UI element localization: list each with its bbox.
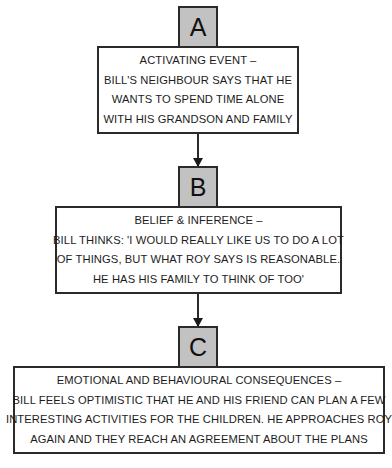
- arrow-a-to-b-icon: [197, 134, 199, 166]
- consequences-line-2: INTERESTING ACTIVITIES FOR THE CHILDREN.…: [6, 410, 392, 430]
- step-label-c: C: [178, 326, 218, 366]
- arrow-b-to-c-icon: [197, 294, 199, 326]
- step-label-b-text: B: [190, 173, 207, 202]
- activating-event-box: ACTIVATING EVENT – BILL'S NEIGHBOUR SAYS…: [97, 46, 299, 134]
- step-label-a-text: A: [190, 13, 207, 42]
- belief-inference-line-3: HE HAS HIS FAMILY TO THINK OF TOO': [93, 270, 304, 290]
- step-label-b: B: [178, 166, 218, 206]
- step-label-a: A: [178, 6, 218, 46]
- consequences-line-1: BILL FEELS OPTIMISTIC THAT HE AND HIS FR…: [13, 391, 386, 411]
- consequences-box: EMOTIONAL AND BEHAVIOURAL CONSEQUENCES –…: [13, 366, 385, 454]
- activating-event-line-1: BILL'S NEIGHBOUR SAYS THAT HE: [104, 71, 292, 91]
- step-label-c-text: C: [189, 333, 207, 362]
- belief-inference-box: BELIEF & INFERENCE – BILL THINKS: 'I WOU…: [55, 206, 342, 294]
- consequences-line-3: AGAIN AND THEY REACH AN AGREEMENT ABOUT …: [30, 430, 368, 450]
- belief-inference-line-2: OF THINGS, BUT WHAT ROY SAYS IS REASONAB…: [57, 250, 340, 270]
- activating-event-line-2: WANTS TO SPEND TIME ALONE: [112, 90, 284, 110]
- activating-event-title: ACTIVATING EVENT –: [140, 51, 257, 71]
- belief-inference-title: BELIEF & INFERENCE –: [134, 211, 262, 231]
- belief-inference-line-1: BILL THINKS: 'I WOULD REALLY LIKE US TO …: [53, 231, 344, 251]
- consequences-title: EMOTIONAL AND BEHAVIOURAL CONSEQUENCES –: [57, 371, 342, 391]
- activating-event-line-3: WITH HIS GRANDSON AND FAMILY: [103, 110, 292, 130]
